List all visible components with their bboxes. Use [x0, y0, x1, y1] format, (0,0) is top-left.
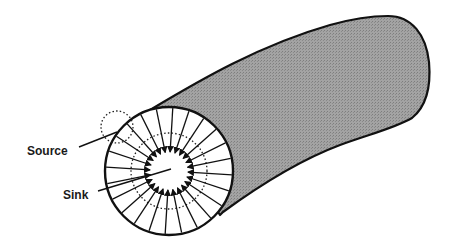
source-label: Source	[27, 144, 68, 158]
sink-label: Sink	[63, 188, 89, 202]
tube-end-face	[105, 107, 233, 235]
diagram-canvas: Source Sink	[0, 0, 457, 252]
